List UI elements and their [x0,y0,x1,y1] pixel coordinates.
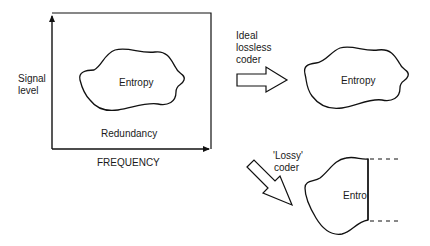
entropy-label-lossless: Entropy [341,75,375,86]
entropy-label-original: Entropy [119,77,153,88]
lossless-label-line2: lossless [236,42,272,53]
entropy-label-lossy: Entro [343,190,367,201]
x-axis-label: FREQUENCY [97,157,160,168]
lossless-arrow [237,67,287,92]
lossless-label-line3: coder [236,54,261,65]
y-axis-label-line2: level [18,85,39,96]
lossy-label-line1: 'Lossy' [273,150,303,161]
lossless-label-line1: Ideal [236,30,258,41]
diagram-canvas [0,0,430,246]
redundancy-label: Redundancy [101,128,157,139]
lossy-label-line2: coder [274,162,299,173]
y-axis-label-line1: Signal [18,73,46,84]
